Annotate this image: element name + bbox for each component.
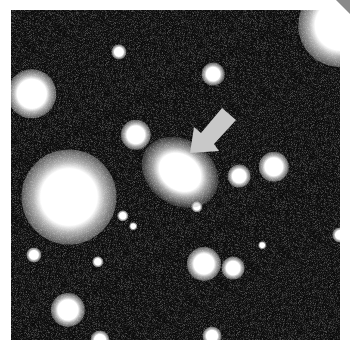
corner-fold-icon	[330, 0, 350, 20]
pointer-arrow-icon	[0, 0, 350, 351]
image-canvas	[0, 0, 350, 351]
